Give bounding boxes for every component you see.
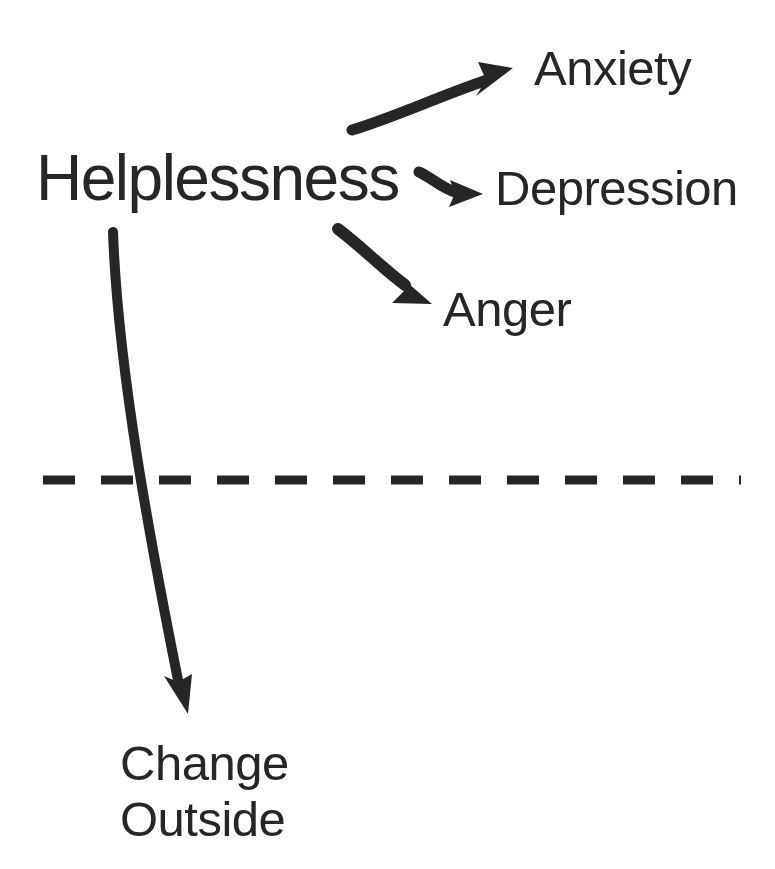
node-label-helplessness: Helplessness [36,146,399,210]
node-label-change-outside-line1: Change [120,735,289,791]
arrow-to-depression-icon [419,172,483,207]
node-label-change-outside-line2: Outside [120,791,289,847]
arrow-to-anxiety-icon [352,62,513,130]
arrow-to-change-outside-shaft [113,232,178,680]
node-label-change-outside: Change Outside [120,735,289,847]
arrow-to-change-outside-icon [113,232,192,714]
node-label-anxiety: Anxiety [534,44,691,93]
diagram-canvas-root: Helplessness Anxiety Depression Anger Ch… [0,0,775,869]
diagram-vector-layer [0,0,775,869]
arrow-to-anger-icon [338,229,432,304]
node-label-anger: Anger [443,285,571,334]
node-label-depression: Depression [495,164,738,213]
arrow-to-anger-shaft [338,229,405,285]
arrow-to-depression-shaft [419,172,455,192]
arrow-to-anxiety-shaft [352,80,487,130]
